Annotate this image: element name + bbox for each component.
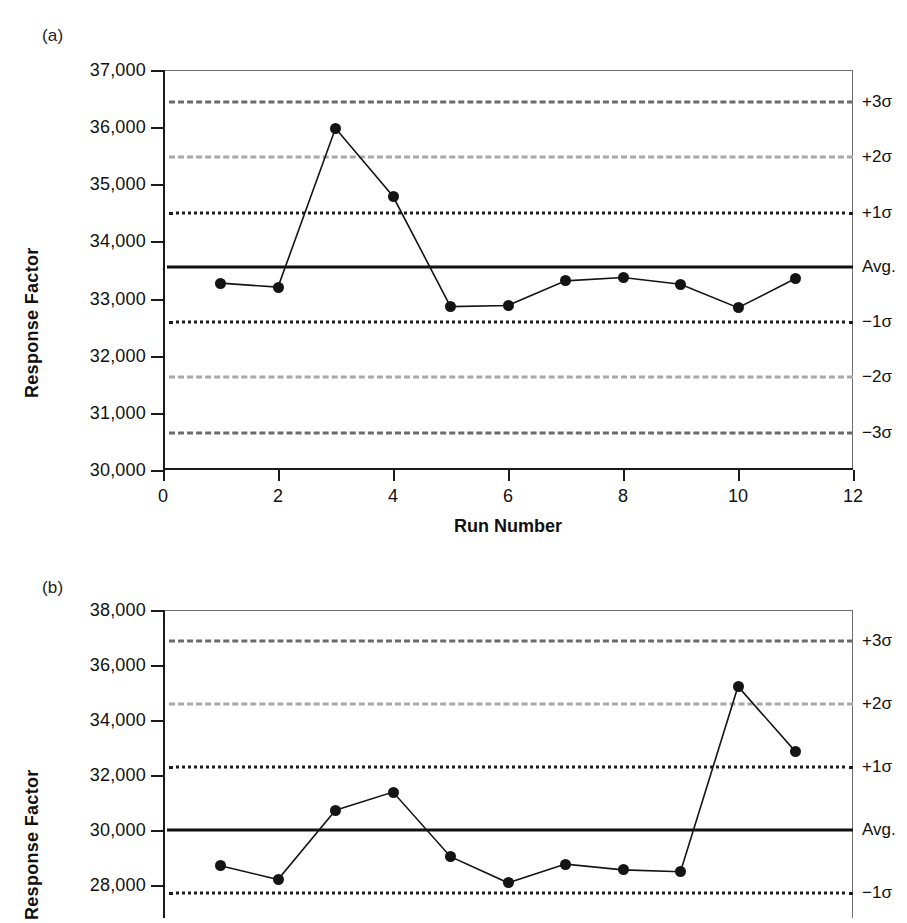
y-tick-label: 34,000 [90,231,146,252]
y-tick-label: 38,000 [90,600,146,621]
x-tick [853,470,855,481]
panel-b: (b) Response Factor 28,00030,00032,00034… [0,560,907,923]
panel-a-y-axis-title: Response Factor [22,247,43,398]
y-tick [151,885,163,887]
y-tick-label: 30,000 [90,460,146,481]
y-tick [151,720,163,722]
y-tick-label: 31,000 [90,402,146,423]
panel-b-plot-area: 28,00030,00032,00034,00036,00038,000 +3σ… [163,610,853,918]
y-tick-label: 33,000 [90,288,146,309]
data-point-marker [790,746,801,757]
y-tick-label: 37,000 [90,60,146,81]
y-tick [151,299,163,301]
x-tick [393,470,395,481]
x-tick-label: 8 [618,486,628,507]
y-tick [151,665,163,667]
data-point-marker [790,273,801,284]
control-limit-label: +2σ [862,147,892,167]
data-point-marker [330,123,341,134]
x-tick-label: 2 [273,486,283,507]
y-tick-label: 30,000 [90,820,146,841]
data-point-marker [503,877,514,888]
y-tick [151,775,163,777]
control-limit-label: +2σ [862,694,892,714]
data-point-marker [503,300,514,311]
panel-a-series-markers [163,70,853,470]
y-tick-label: 36,000 [90,117,146,138]
y-tick [151,470,163,472]
x-tick-label: 4 [388,486,398,507]
y-tick [151,413,163,415]
control-limit-label: +1σ [862,757,892,777]
x-tick [508,470,510,481]
control-limit-label: +1σ [862,203,892,223]
y-tick [151,610,163,612]
y-tick-label: 32,000 [90,765,146,786]
panel-b-series-markers [163,610,853,918]
control-limit-label: −3σ [862,423,892,443]
data-point-marker [273,282,284,293]
y-tick [151,184,163,186]
data-point-marker [560,859,571,870]
data-point-marker [733,681,744,692]
data-point-marker [445,301,456,312]
data-point-marker [618,272,629,283]
x-tick-label: 10 [728,486,748,507]
data-point-marker [388,787,399,798]
y-tick [151,127,163,129]
y-tick [151,830,163,832]
data-point-marker [215,860,226,871]
control-limit-label: Avg. [862,820,896,840]
y-tick [151,241,163,243]
control-limit-label: −1σ [862,883,892,903]
x-tick [163,470,165,481]
panel-a-label: (a) [42,26,63,46]
x-tick-label: 6 [503,486,513,507]
x-tick [278,470,280,481]
x-tick [738,470,740,481]
control-limit-label: Avg. [862,257,896,277]
panel-a-x-axis-title: Run Number [163,516,853,537]
x-tick-label: 0 [158,486,168,507]
x-tick [623,470,625,481]
data-point-marker [675,279,686,290]
data-point-marker [445,851,456,862]
data-point-marker [733,302,744,313]
y-tick [151,70,163,72]
data-point-marker [675,866,686,877]
data-point-marker [330,805,341,816]
data-point-marker [215,278,226,289]
control-limit-label: −2σ [862,367,892,387]
data-point-marker [388,191,399,202]
y-tick-label: 28,000 [90,875,146,896]
panel-b-label: (b) [42,578,63,598]
control-limit-label: +3σ [862,92,892,112]
y-tick-label: 32,000 [90,345,146,366]
y-tick-label: 35,000 [90,174,146,195]
y-tick-label: 34,000 [90,710,146,731]
y-tick [151,356,163,358]
control-limit-label: −1σ [862,312,892,332]
panel-a-plot-area: 30,00031,00032,00033,00034,00035,00036,0… [163,70,853,470]
figure-control-charts: (a) Response Factor 30,00031,00032,00033… [0,0,907,923]
y-tick-label: 36,000 [90,655,146,676]
data-point-marker [273,874,284,885]
control-limit-label: +3σ [862,631,892,651]
data-point-marker [560,275,571,286]
panel-b-y-axis-title: Response Factor [22,769,43,920]
data-point-marker [618,864,629,875]
x-tick-label: 12 [843,486,863,507]
panel-a: (a) Response Factor 30,00031,00032,00033… [0,0,907,560]
